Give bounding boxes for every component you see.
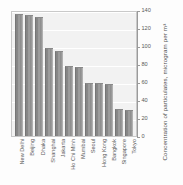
category-label-slot: Bangkok: [105, 138, 115, 185]
tick-label: 80: [142, 62, 148, 68]
tick-label: 0: [142, 134, 145, 140]
category-label-slot: Ho Chi Minh: [64, 138, 74, 185]
category-label: Tokyo: [132, 139, 138, 154]
bar-slot: [104, 12, 114, 136]
tick-mark: [137, 65, 140, 66]
plot-area: [11, 11, 137, 137]
category-label-slot: Tokyo: [125, 138, 135, 185]
category-label-slot: Beijing: [23, 138, 33, 185]
bar: [75, 67, 82, 136]
category-label-slot: Mumbai: [74, 138, 84, 185]
tick-mark: [137, 119, 140, 120]
category-label-slot: Singapore: [115, 138, 125, 185]
category-axis-labels: New DelhiBeijingDhakaShanghaiJakartaHo C…: [11, 138, 137, 185]
tick-label: 120: [142, 26, 151, 32]
category-label-slot: Jakarta: [54, 138, 64, 185]
bar: [35, 17, 42, 136]
bar: [115, 109, 122, 136]
bar: [15, 14, 22, 136]
bar-slot: [124, 12, 134, 136]
bar-slot: [84, 12, 94, 136]
bar: [125, 110, 132, 136]
bar-slot: [74, 12, 84, 136]
bar: [55, 51, 62, 136]
tick-label: 40: [142, 98, 148, 104]
tick-label: 20: [142, 116, 148, 122]
category-label-slot: Hong Kong: [94, 138, 104, 185]
bar-slot: [114, 12, 124, 136]
tick-label: 140: [142, 8, 151, 14]
bar-slot: [64, 12, 74, 136]
tick-label: 60: [142, 80, 148, 86]
bar: [95, 83, 102, 136]
bar-series: [12, 12, 136, 136]
category-label-slot: Seoul: [84, 138, 94, 185]
bar: [25, 15, 32, 137]
tick-mark: [137, 83, 140, 84]
tick-mark: [137, 11, 140, 12]
bar-slot: [34, 12, 44, 136]
y-axis-title: Concentration of particulates, microgram…: [158, 0, 172, 185]
tick-mark: [137, 29, 140, 30]
bar-slot: [94, 12, 104, 136]
tick-mark: [137, 47, 140, 48]
category-label-slot: Dhaka: [33, 138, 43, 185]
bar: [85, 83, 92, 136]
bar-slot: [14, 12, 24, 136]
tick-label: 100: [142, 44, 151, 50]
y-axis-title-label: Concentration of particulates, microgram…: [162, 24, 168, 161]
category-label-slot: Shanghai: [44, 138, 54, 185]
tick-mark: [137, 137, 140, 138]
bar: [65, 66, 72, 136]
tick-mark: [137, 101, 140, 102]
bar: [45, 48, 52, 136]
bar-slot: [44, 12, 54, 136]
category-label-slot: New Delhi: [13, 138, 23, 185]
bar: [105, 84, 112, 136]
bar-slot: [54, 12, 64, 136]
bar-chart-figure: 020406080100120140 Concentration of part…: [0, 0, 183, 185]
bar-slot: [24, 12, 34, 136]
